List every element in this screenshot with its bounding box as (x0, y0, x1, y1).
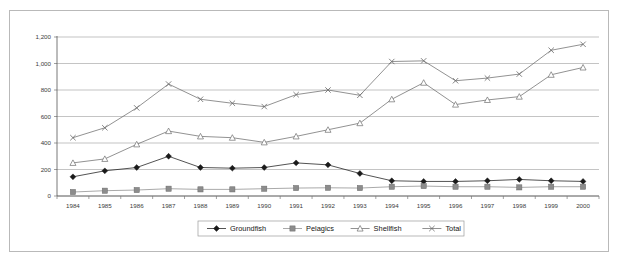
data-point-pelagics-1989 (230, 187, 235, 192)
y-axis-tick-label: 1,000 (36, 60, 52, 67)
legend-label-pelagics: Pelagics (306, 224, 334, 233)
data-point-shellfish-2000 (580, 64, 586, 70)
data-point-pelagics-1997 (485, 184, 490, 189)
data-point-pelagics-1995 (421, 183, 426, 188)
x-axis-tick-label: 1996 (449, 202, 463, 209)
data-point-pelagics-1996 (453, 184, 458, 189)
x-axis-ticks: 1984198519861987198819891990199119921993… (57, 196, 599, 209)
y-axis-tick-label: 400 (41, 139, 52, 146)
x-axis-tick-label: 1991 (289, 202, 303, 209)
data-point-pelagics-1992 (325, 185, 330, 190)
data-point-shellfish-1998 (516, 94, 522, 100)
data-point-pelagics-2000 (580, 184, 585, 189)
legend-marker-pelagics (290, 226, 295, 231)
y-axis-tick-label: 1,200 (36, 33, 52, 40)
data-point-shellfish-1987 (166, 128, 172, 134)
data-point-groundfish-1998 (516, 177, 522, 183)
legend-label-total: Total (445, 224, 461, 233)
data-point-groundfish-1999 (548, 178, 554, 184)
y-axis-tick-label: 800 (41, 86, 52, 93)
data-point-pelagics-1987 (166, 186, 171, 191)
series-pelagics (70, 183, 585, 194)
legend-label-shellfish: Shellfish (374, 224, 402, 233)
data-point-pelagics-1998 (517, 185, 522, 190)
data-point-pelagics-1994 (389, 184, 394, 189)
y-axis-tick-label: 200 (41, 166, 52, 173)
x-axis-tick-label: 1999 (544, 202, 558, 209)
y-axis-tick-label: 600 (41, 113, 52, 120)
data-point-pelagics-1985 (102, 188, 107, 193)
series-total (70, 42, 586, 141)
data-point-groundfish-1987 (166, 153, 172, 159)
y-axis-tick-label: 0 (48, 192, 52, 199)
series-groundfish (70, 153, 586, 184)
data-point-groundfish-1985 (102, 168, 108, 174)
data-point-shellfish-1995 (421, 80, 427, 86)
x-axis-tick-label: 1984 (66, 202, 80, 209)
x-axis-tick-label: 1988 (194, 202, 208, 209)
data-point-shellfish-1985 (102, 156, 108, 162)
data-point-shellfish-1993 (357, 120, 363, 126)
x-axis-tick-label: 2000 (576, 202, 590, 209)
data-point-total-1984 (70, 135, 75, 140)
chart-frame: 02004006008001,0001,20019841985198619871… (9, 10, 609, 252)
series-line-shellfish (73, 67, 583, 162)
data-point-pelagics-1993 (357, 185, 362, 190)
x-axis-tick-label: 1985 (98, 202, 112, 209)
x-axis-tick-label: 1992 (321, 202, 335, 209)
data-point-groundfish-1997 (485, 178, 491, 184)
data-point-pelagics-1984 (70, 189, 75, 194)
data-point-groundfish-1994 (389, 178, 395, 184)
data-point-pelagics-1986 (134, 187, 139, 192)
data-point-groundfish-1991 (293, 160, 299, 166)
x-axis-tick-label: 1997 (481, 202, 495, 209)
x-axis-tick-label: 1998 (512, 202, 526, 209)
x-axis-tick-label: 1990 (257, 202, 271, 209)
series-line-total (73, 44, 583, 137)
series-line-groundfish (73, 156, 583, 181)
data-point-total-1985 (102, 125, 107, 130)
x-axis-tick-label: 1989 (225, 202, 239, 209)
data-point-pelagics-1991 (294, 185, 299, 190)
data-point-pelagics-1990 (262, 186, 267, 191)
line-chart: 02004006008001,0001,20019841985198619871… (10, 11, 610, 253)
data-point-total-1986 (134, 105, 139, 110)
data-point-groundfish-1984 (70, 174, 76, 180)
data-point-groundfish-1992 (325, 162, 331, 168)
data-point-groundfish-1993 (357, 171, 363, 177)
series-shellfish (70, 64, 586, 165)
data-point-pelagics-1999 (549, 184, 554, 189)
data-point-groundfish-1989 (229, 165, 235, 171)
x-axis-tick-label: 1993 (353, 202, 367, 209)
data-point-pelagics-1988 (198, 187, 203, 192)
legend-label-groundfish: Groundfish (230, 224, 266, 233)
x-axis-tick-label: 1987 (162, 202, 176, 209)
data-point-groundfish-1996 (453, 179, 459, 185)
data-point-total-1987 (166, 81, 171, 86)
data-point-shellfish-1994 (389, 96, 395, 102)
data-point-shellfish-1986 (134, 141, 140, 147)
x-axis-tick-label: 1986 (130, 202, 144, 209)
chart-legend: GroundfishPelagicsShellfishTotal (198, 221, 464, 236)
x-axis-tick-label: 1994 (385, 202, 399, 209)
y-gridlines: 02004006008001,0001,200 (36, 33, 599, 199)
x-axis-tick-label: 1995 (417, 202, 431, 209)
data-point-groundfish-2000 (580, 179, 586, 185)
